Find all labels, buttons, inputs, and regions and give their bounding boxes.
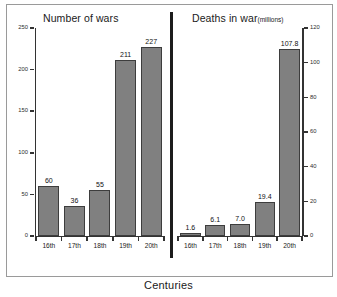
x-tick-mark [61,236,63,241]
plot-area-number-of-wars: 050100150200250 6016th3617th5518th21119t… [36,28,164,236]
bar-16th[interactable] [180,233,200,236]
bar-group: 6016th [36,28,62,236]
bar-series-deaths: 1.616th6.117th7.018th19.419th107.820th [178,28,302,236]
bar-20th[interactable] [279,49,299,236]
x-tick-mark [35,236,37,241]
y-tick-label: 0 [310,233,313,239]
x-axis-label: Centuries [0,279,337,291]
x-tick-mark [276,236,278,241]
y-tick-mark [30,235,34,237]
x-tick-label-16th: 16th [36,243,62,250]
panel-deaths-in-war: Deaths in war(millions) 020406080100120 … [176,10,326,258]
bar-16th[interactable] [38,186,59,236]
bar-group: 3617th [62,28,88,236]
bar-value-label: 60 [36,177,62,184]
x-tick-mark [138,236,140,241]
bar-18th[interactable] [89,190,110,236]
bar-value-label: 211 [113,51,139,58]
y-tick-mark [30,152,34,154]
bar-value-label: 55 [87,181,113,188]
y-tick-label: 40 [310,164,316,170]
y-tick-label: 60 [310,129,316,135]
y-tick-label: 20 [310,199,316,205]
y-tick-mark [304,235,308,237]
chart-figure: Number of wars 050100150200250 6016th361… [0,0,337,297]
bar-18th[interactable] [230,224,250,236]
x-tick-mark [227,236,229,241]
panel-divider [170,12,173,258]
y-tick-mark [30,194,34,196]
x-tick-label-19th: 19th [113,243,139,250]
panel-number-of-wars: Number of wars 050100150200250 6016th361… [14,10,166,258]
y-tick-mark [304,201,308,203]
y-tick-label: 120 [310,25,320,31]
bar-20th[interactable] [141,47,162,236]
bar-value-label: 1.6 [178,224,203,231]
bar-series-wars: 6016th3617th5518th21119th22720th [36,28,164,236]
bar-value-label: 36 [62,197,88,204]
bar-group: 107.820th [277,28,302,236]
y-tick-label: 0 [25,233,28,239]
x-tick-mark [163,236,165,241]
x-tick-label-20th: 20th [138,243,164,250]
y-tick-mark [304,27,308,29]
x-tick-mark [252,236,254,241]
x-tick-mark [202,236,204,241]
plot-area-deaths-in-war: 020406080100120 1.616th6.117th7.018th19.… [178,28,302,236]
y-tick-mark [304,166,308,168]
x-tick-label-18th: 18th [228,243,253,250]
x-tick-mark [177,236,179,241]
bar-17th[interactable] [205,225,225,236]
x-tick-label-19th: 19th [252,243,277,250]
y-tick-label: 100 [310,60,320,66]
bar-group: 21119th [113,28,139,236]
bar-group: 19.419th [252,28,277,236]
y-tick-label: 100 [18,150,28,156]
bar-value-label: 6.1 [203,216,228,223]
y-tick-mark [30,110,34,112]
bar-group: 5518th [87,28,113,236]
x-tick-mark [112,236,114,241]
x-tick-label-20th: 20th [277,243,302,250]
y-tick-mark [304,62,308,64]
y-tick-label: 150 [18,108,28,114]
panel-title-text-deaths: Deaths in war [192,12,258,24]
bar-group: 6.117th [203,28,228,236]
y-tick-mark [30,69,34,71]
y-tick-label: 80 [310,95,316,101]
y-tick-mark [30,27,34,29]
y-tick-label: 200 [18,67,28,73]
x-tick-label-17th: 17th [203,243,228,250]
x-tick-label-18th: 18th [87,243,113,250]
bar-group: 22720th [138,28,164,236]
panel-title-text-wars: Number of wars [43,12,119,24]
x-axis-line-deaths [178,236,302,237]
y-tick-mark [304,131,308,133]
y-tick-mark [304,97,308,99]
x-axis-line-wars [36,236,164,237]
panel-title-deaths-in-war: Deaths in war(millions) [192,12,284,24]
panel-title-unit-deaths: (millions) [258,16,284,23]
panel-title-number-of-wars: Number of wars [43,12,119,24]
x-tick-mark [86,236,88,241]
x-tick-label-17th: 17th [62,243,88,250]
bar-group: 1.616th [178,28,203,236]
x-tick-mark [301,236,303,241]
bar-19th[interactable] [115,60,136,236]
x-tick-label-16th: 16th [178,243,203,250]
y-tick-label: 50 [22,192,28,198]
bar-17th[interactable] [64,206,85,236]
bar-value-label: 19.4 [252,193,277,200]
bar-19th[interactable] [255,202,275,236]
bar-value-label: 107.8 [277,40,302,47]
bar-value-label: 7.0 [228,215,253,222]
bar-group: 7.018th [228,28,253,236]
bar-value-label: 227 [138,38,164,45]
y-tick-label: 250 [18,25,28,31]
